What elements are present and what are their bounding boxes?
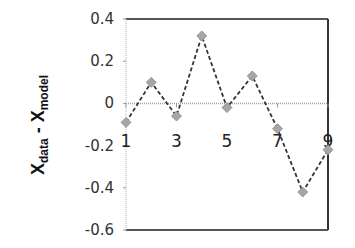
x-tick-label: 3 [171, 131, 182, 151]
x-tick-label: 1 [121, 131, 132, 151]
data-series [121, 31, 333, 197]
y-tick-label: -0.4 [85, 179, 114, 197]
y-tick-label: -0.6 [85, 221, 114, 239]
data-point-marker [197, 31, 207, 41]
y-tick-label: 0 [104, 94, 114, 112]
y-tick-label: 0.4 [90, 10, 114, 28]
residual-line-chart: 0.40.20-0.2-0.4-0.6 13579 Xdata - Xmodel [0, 0, 355, 248]
data-point-marker [121, 117, 131, 127]
x-tick-label: 5 [222, 131, 233, 151]
data-point-marker [247, 71, 257, 81]
y-axis-label: Xdata - Xmodel [28, 75, 51, 175]
y-axis-ticks: 0.40.20-0.2-0.4-0.6 [85, 10, 126, 239]
x-tick-label: 7 [272, 131, 283, 151]
y-tick-label: -0.2 [85, 137, 114, 155]
plot-frame [126, 19, 328, 230]
y-tick-label: 0.2 [90, 52, 114, 70]
data-point-marker [298, 187, 308, 197]
